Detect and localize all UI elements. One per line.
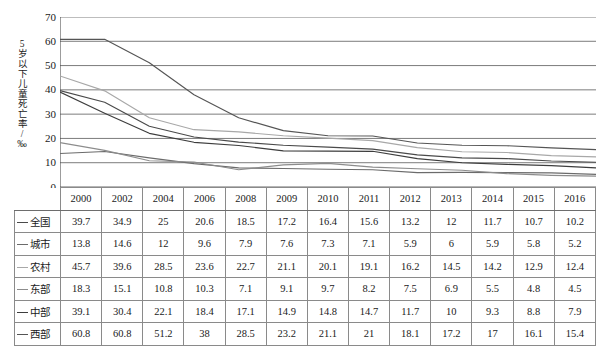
cell-西部-2015: 16.1 [513,323,554,346]
cell-中部-2011: 14.7 [348,300,389,323]
cell-农村-2009: 21.1 [266,255,307,278]
row-label-text: 全国 [30,217,50,228]
row-label-text: 城市 [30,239,50,250]
cell-农村-2002: 39.6 [102,255,143,278]
table-body: 全国39.734.92520.618.517.216.415.613.21211… [15,210,596,345]
legend-line-icon [17,244,28,245]
row-label-西部: 西部 [15,323,61,346]
legend-line-icon [17,222,28,223]
row-label-中部: 中部 [15,300,61,323]
cell-全国-2004: 25 [143,210,184,233]
y-tick-50: 50 [34,60,56,71]
column-header-2011: 2011 [348,188,389,211]
cell-农村-2016: 12.4 [554,255,595,278]
cell-农村-2010: 20.1 [307,255,348,278]
row-label-全国: 全国 [15,210,61,233]
cell-东部-2012: 7.5 [390,278,431,301]
chart-page: 5岁以下儿童死亡率/‰ 706050403020100 200020022004… [0,0,602,347]
cell-城市-2012: 5.9 [390,233,431,256]
row-label-text: 东部 [30,284,50,295]
cell-全国-2012: 13.2 [390,210,431,233]
table-row: 西部60.860.851.23828.523.221.12118.117.217… [15,323,596,346]
cell-城市-2008: 7.9 [225,233,266,256]
cell-东部-2014: 5.5 [472,278,513,301]
cell-农村-2012: 16.2 [390,255,431,278]
column-header-2006: 2006 [184,188,225,211]
legend-line-icon [17,267,28,268]
cell-全国-2010: 16.4 [307,210,348,233]
cell-城市-2015: 5.8 [513,233,554,256]
cell-东部-2016: 4.5 [554,278,595,301]
cell-农村-2000: 45.7 [61,255,102,278]
cell-农村-2006: 23.6 [184,255,225,278]
cell-中部-2004: 22.1 [143,300,184,323]
cell-东部-2009: 9.1 [266,278,307,301]
cell-全国-2013: 12 [431,210,472,233]
cell-西部-2002: 60.8 [102,323,143,346]
column-header-2015: 2015 [513,188,554,211]
cell-中部-2002: 30.4 [102,300,143,323]
cell-东部-2008: 7.1 [225,278,266,301]
y-tick-40: 40 [34,84,56,95]
y-tick-30: 30 [34,109,56,120]
column-header-2014: 2014 [472,188,513,211]
legend-line-icon [17,289,28,290]
plot-area [60,17,596,187]
cell-全国-2011: 15.6 [348,210,389,233]
y-tick-20: 20 [34,133,56,144]
column-header-2012: 2012 [390,188,431,211]
column-header-2013: 2013 [431,188,472,211]
cell-全国-2009: 17.2 [266,210,307,233]
series-line-农村 [60,76,596,157]
cell-西部-2004: 51.2 [143,323,184,346]
cell-中部-2013: 10 [431,300,472,323]
chart-svg [60,17,596,187]
legend-line-icon [17,312,28,313]
row-label-text: 农村 [30,262,50,273]
cell-中部-2008: 17.1 [225,300,266,323]
column-header-2000: 2000 [61,188,102,211]
cell-农村-2004: 28.5 [143,255,184,278]
column-header-2008: 2008 [225,188,266,211]
cell-中部-2016: 7.9 [554,300,595,323]
y-tick-10: 10 [34,157,56,168]
cell-农村-2011: 19.1 [348,255,389,278]
cell-农村-2013: 14.5 [431,255,472,278]
cell-东部-2013: 6.9 [431,278,472,301]
cell-西部-2006: 38 [184,323,225,346]
cell-全国-2006: 20.6 [184,210,225,233]
cell-全国-2016: 10.2 [554,210,595,233]
table-row: 农村45.739.628.523.622.721.120.119.116.214… [15,255,596,278]
cell-西部-2009: 23.2 [266,323,307,346]
y-tick-70: 70 [34,12,56,23]
cell-城市-2006: 9.6 [184,233,225,256]
cell-中部-2000: 39.1 [61,300,102,323]
table-row: 东部18.315.110.810.37.19.19.78.27.56.95.54… [15,278,596,301]
cell-农村-2008: 22.7 [225,255,266,278]
column-header-2010: 2010 [307,188,348,211]
cell-全国-2000: 39.7 [61,210,102,233]
row-label-text: 中部 [30,307,50,318]
cell-西部-2014: 17 [472,323,513,346]
line-chart: 5岁以下儿童死亡率/‰ 706050403020100 [0,0,602,188]
cell-东部-2006: 10.3 [184,278,225,301]
cell-东部-2011: 8.2 [348,278,389,301]
cell-西部-2010: 21.1 [307,323,348,346]
cell-中部-2012: 11.7 [390,300,431,323]
cell-西部-2012: 18.1 [390,323,431,346]
cell-城市-2004: 12 [143,233,184,256]
column-header-2002: 2002 [102,188,143,211]
table-header-row: 2000200220042006200820092010201120122013… [15,188,596,211]
cell-中部-2014: 9.3 [472,300,513,323]
cell-城市-2011: 7.1 [348,233,389,256]
column-header-2016: 2016 [554,188,595,211]
cell-西部-2016: 15.4 [554,323,595,346]
y-axis-title: 5岁以下儿童死亡率/‰ [14,14,30,174]
table-row: 中部39.130.422.118.417.114.914.814.711.710… [15,300,596,323]
table-row: 城市13.814.6129.67.97.67.37.15.965.95.85.2 [15,233,596,256]
cell-中部-2009: 14.9 [266,300,307,323]
cell-城市-2000: 13.8 [61,233,102,256]
cell-城市-2002: 14.6 [102,233,143,256]
column-header-2004: 2004 [143,188,184,211]
cell-东部-2010: 9.7 [307,278,348,301]
